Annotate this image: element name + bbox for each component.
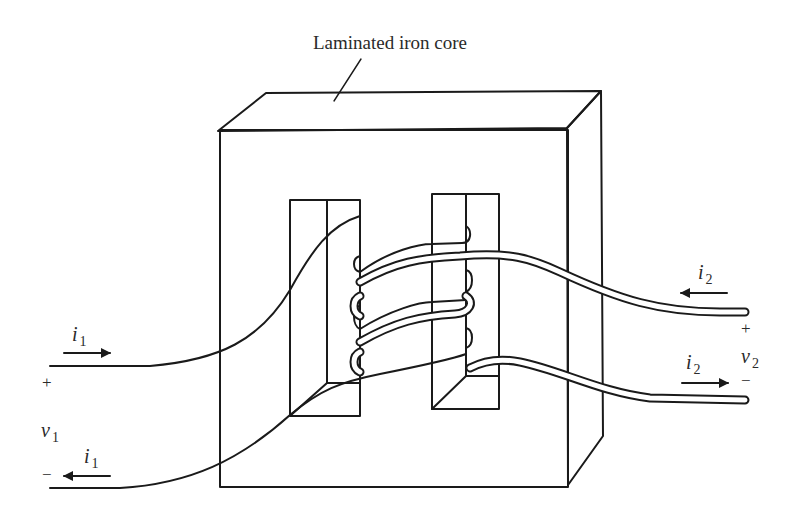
secondary-voltage-label: v2: [741, 346, 759, 366]
left-window: [290, 200, 360, 416]
secondary-current-label-top: i2: [698, 262, 713, 282]
transformer-diagram: Laminated iron core i1 + v1 i1 − i2 + v2…: [0, 0, 802, 519]
label-leader-line: [334, 59, 361, 101]
primary-winding: [50, 216, 472, 488]
secondary-winding: [354, 255, 745, 400]
primary-current-label-bottom: i1: [84, 446, 99, 466]
core-front-face: [220, 130, 568, 487]
secondary-plus-sign: +: [741, 320, 751, 337]
core-top-face: [218, 91, 601, 131]
primary-current-label-top: i1: [72, 324, 87, 344]
secondary-minus-sign: −: [741, 372, 751, 389]
primary-minus-sign: −: [42, 466, 52, 483]
primary-voltage-label: v1: [41, 420, 59, 440]
primary-plus-sign: +: [42, 374, 52, 391]
transformer-drawing: [0, 0, 802, 519]
core-label: Laminated iron core: [313, 33, 467, 52]
secondary-current-label-bottom: i2: [686, 352, 701, 372]
